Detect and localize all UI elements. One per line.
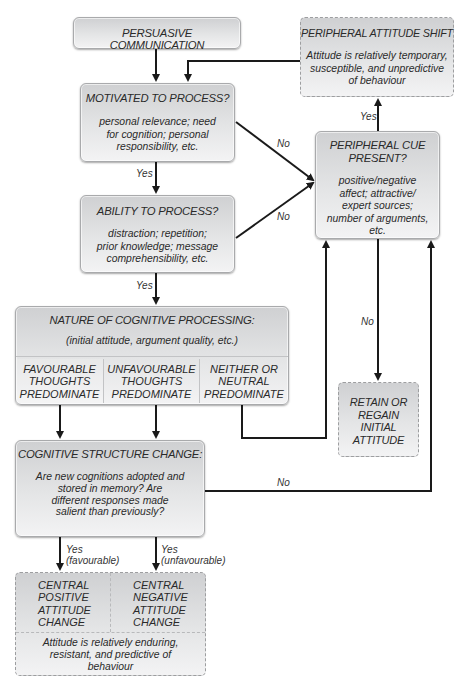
node-body: distraction; repetition; prior knowledge… xyxy=(81,228,234,266)
node-title: COGNITIVE STRUCTURE CHANGE: xyxy=(16,448,204,460)
divider xyxy=(16,632,205,633)
edge-label-motivated-yes: Yes xyxy=(136,168,153,179)
edge-label-structure-no: No xyxy=(277,477,290,488)
node-title: PERSUASIVE COMMUNICATION xyxy=(74,27,240,51)
node-title: RETAIN OR REGAIN INITIAL ATTITUDE xyxy=(339,396,418,446)
edge-label-structure-yes-favourable: Yes (favourable) xyxy=(66,544,119,566)
edge-label-structure-yes-unfavourable: Yes (unfavourable) xyxy=(161,544,225,566)
node-peripheral-cue-present: PERIPHERAL CUE PRESENT? positive/negativ… xyxy=(315,131,440,239)
node-central-attitude-change: CENTRAL POSITIVE ATTITUDE CHANGE CENTRAL… xyxy=(15,572,206,676)
node-subtitle: (initial attitude, argument quality, etc… xyxy=(16,335,288,348)
node-title: PERIPHERAL ATTITUDE SHIFT xyxy=(301,27,453,39)
option-favourable: FAVOURABLE THOUGHTS PREDOMINATE xyxy=(16,359,104,403)
node-nature-of-cognitive-processing: NATURE OF COGNITIVE PROCESSING: (initial… xyxy=(15,306,289,405)
node-title: PERIPHERAL CUE PRESENT? xyxy=(316,139,439,165)
option-unfavourable: UNFAVOURABLE THOUGHTS PREDOMINATE xyxy=(104,359,200,403)
node-body: personal relevance; need for cognition; … xyxy=(81,116,234,154)
node-motivated-to-process: MOTIVATED TO PROCESS? personal relevance… xyxy=(80,83,235,162)
edge-label-cue-yes: Yes xyxy=(360,111,377,122)
node-title: ABILITY TO PROCESS? xyxy=(81,205,234,217)
node-ability-to-process: ABILITY TO PROCESS? distraction; repetit… xyxy=(80,195,235,273)
node-title: MOTIVATED TO PROCESS? xyxy=(81,92,234,104)
node-peripheral-attitude-shift: PERIPHERAL ATTITUDE SHIFT Attitude is re… xyxy=(300,17,454,97)
node-body: Are new cognitions adopted and stored in… xyxy=(16,471,204,518)
edge-label-motivated-no: No xyxy=(277,138,290,149)
edge-label-ability-no: No xyxy=(277,211,290,222)
node-body: Attitude is relatively enduring, resista… xyxy=(16,637,205,673)
divider xyxy=(16,356,288,357)
option-neither: NEITHER OR NEUTRAL PREDOMINATE xyxy=(200,359,288,403)
edge-label-cue-no: No xyxy=(361,316,374,327)
node-body: positive/negative affect; attractive/ ex… xyxy=(316,175,439,238)
option-central-positive: CENTRAL POSITIVE ATTITUDE CHANGE xyxy=(16,573,111,632)
edge-label-ability-yes: Yes xyxy=(136,280,153,291)
node-persuasive-communication: PERSUASIVE COMMUNICATION xyxy=(73,17,241,49)
node-body: Attitude is relatively temporary, suscep… xyxy=(301,50,453,88)
node-title: NATURE OF COGNITIVE PROCESSING: xyxy=(16,314,288,326)
node-retain-initial-attitude: RETAIN OR REGAIN INITIAL ATTITUDE xyxy=(338,382,419,457)
option-central-negative: CENTRAL NEGATIVE ATTITUDE CHANGE xyxy=(111,573,204,632)
node-cognitive-structure-change: COGNITIVE STRUCTURE CHANGE: Are new cogn… xyxy=(15,440,205,537)
